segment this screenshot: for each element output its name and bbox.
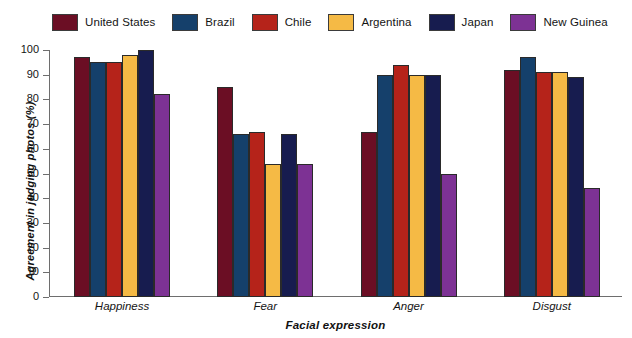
x-axis-title: Facial expression (49, 319, 622, 331)
y-axis-tick-mark (43, 297, 49, 298)
bar[interactable] (425, 75, 441, 297)
bar[interactable] (90, 62, 106, 297)
legend-swatch-icon (252, 14, 278, 31)
bar-group (217, 50, 313, 297)
bar[interactable] (520, 57, 536, 297)
bar[interactable] (154, 94, 170, 297)
y-axis-tick-label: 10 (27, 265, 39, 277)
legend-swatch-icon (510, 14, 536, 31)
legend-item[interactable]: Argentina (328, 14, 411, 31)
legend-item[interactable]: Brazil (172, 14, 234, 31)
y-axis-tick-label: 50 (27, 167, 39, 179)
bars-layer (49, 50, 622, 297)
y-axis-tick-label: 30 (27, 216, 39, 228)
y-axis-tick-label: 100 (21, 43, 39, 55)
y-axis-tick-label: 20 (27, 241, 39, 253)
legend-item-label: Chile (285, 16, 312, 28)
y-axis-tick-label: 90 (27, 68, 39, 80)
bar[interactable] (584, 188, 600, 297)
bar[interactable] (361, 132, 377, 297)
y-axis-tick-label: 70 (27, 117, 39, 129)
legend-swatch-icon (328, 14, 354, 31)
bar[interactable] (377, 75, 393, 297)
bar[interactable] (536, 72, 552, 297)
bar-group (74, 50, 170, 297)
bar[interactable] (297, 164, 313, 297)
legend-swatch-icon (429, 14, 455, 31)
bar[interactable] (409, 75, 425, 297)
legend-item[interactable]: Japan (429, 14, 494, 31)
x-axis-tick-label: Fear (253, 300, 277, 312)
bar-group (504, 50, 600, 297)
bar[interactable] (249, 132, 265, 297)
legend-item-label: Argentina (361, 16, 411, 28)
y-axis-tick-label: 0 (33, 290, 39, 302)
legend-swatch-icon (172, 14, 198, 31)
bar[interactable] (74, 57, 90, 297)
bar[interactable] (504, 70, 520, 297)
legend-item-label: New Guinea (543, 16, 607, 28)
y-axis-tick-label: 40 (27, 191, 39, 203)
bar[interactable] (106, 62, 122, 297)
legend-item[interactable]: United States (52, 14, 155, 31)
x-axis-tick-label: Anger (393, 300, 424, 312)
y-axis-tick-label: 80 (27, 92, 39, 104)
y-axis: Agreement in judging photos (%) 01020304… (0, 50, 49, 297)
legend-item[interactable]: New Guinea (510, 14, 607, 31)
legend-swatch-icon (52, 14, 78, 31)
bar[interactable] (233, 134, 249, 297)
bar[interactable] (393, 65, 409, 297)
x-axis-tick-label: Happiness (95, 300, 149, 312)
legend-item-label: Japan (462, 16, 494, 28)
x-axis-tick-label: Disgust (533, 300, 571, 312)
legend-item-label: Brazil (205, 16, 234, 28)
legend-item-label: United States (85, 16, 155, 28)
y-axis-tick-label: 60 (27, 142, 39, 154)
bar[interactable] (138, 50, 154, 297)
bar[interactable] (441, 174, 457, 298)
legend-item[interactable]: Chile (252, 14, 312, 31)
bar[interactable] (552, 72, 568, 297)
bar[interactable] (281, 134, 297, 297)
bar-chart: United StatesBrazilChileArgentinaJapanNe… (0, 0, 632, 338)
bar[interactable] (265, 164, 281, 297)
chart-legend: United StatesBrazilChileArgentinaJapanNe… (52, 11, 622, 33)
x-axis-tick-labels: HappinessFearAngerDisgust (49, 300, 622, 318)
bar-group (361, 50, 457, 297)
bar[interactable] (122, 55, 138, 297)
bar[interactable] (568, 77, 584, 297)
bar[interactable] (217, 87, 233, 297)
